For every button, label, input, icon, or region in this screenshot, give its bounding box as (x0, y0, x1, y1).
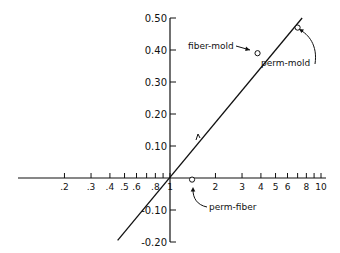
arrowhead-icon (245, 47, 250, 52)
log-scale-scatter-chart: .2.3.4.5.6.81234568100.500.400.300.200.1… (0, 0, 340, 253)
x-tick-label: .2 (60, 182, 69, 192)
x-tick-label: 2 (213, 182, 219, 192)
label-perm-mold: perm-mold (261, 58, 310, 68)
y-tick-label: 0.10 (145, 141, 167, 152)
y-tick-label: 0.50 (145, 13, 167, 24)
label-perm-fiber: perm-fiber (209, 202, 257, 212)
x-tick-label: 10 (315, 182, 327, 192)
chart-canvas: .2.3.4.5.6.81234568100.500.400.300.200.1… (0, 0, 340, 253)
annotations: fiber-moldperm-moldperm-fiber (188, 29, 316, 212)
arrow-perm-fiber (193, 190, 207, 207)
x-tick-label: 8 (303, 182, 309, 192)
x-tick-label: 4 (258, 182, 264, 192)
x-tick-label: 3 (239, 182, 245, 192)
arrowhead-icon (191, 187, 196, 192)
y-tick-label: -0.20 (141, 237, 167, 248)
axes: .2.3.4.5.6.81234568100.500.400.300.200.1… (18, 13, 327, 248)
label-fiber-mold: fiber-mold (188, 41, 234, 51)
x-tick-label: 5 (273, 182, 279, 192)
x-tick-label: .3 (87, 182, 96, 192)
line-direction-mark (196, 134, 200, 140)
y-tick-label: 0.30 (145, 77, 167, 88)
y-tick-label: 0.20 (145, 109, 167, 120)
x-tick-label: .6 (132, 182, 141, 192)
x-tick-label: .4 (106, 182, 115, 192)
x-tick-label: 1 (167, 182, 173, 192)
x-tick-label: 6 (285, 182, 291, 192)
y-tick-label: 0.40 (145, 45, 167, 56)
x-tick-label: .5 (120, 182, 129, 192)
data-point-fiber-mold (255, 51, 260, 56)
data-point-perm-fiber (189, 177, 194, 182)
